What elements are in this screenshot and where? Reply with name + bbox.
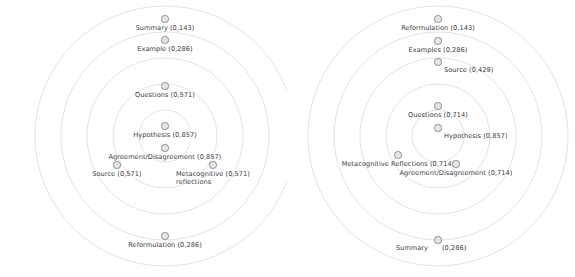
- node-label: Hypothesis (0,857): [444, 132, 508, 140]
- node-label-line2: reflections: [176, 178, 250, 186]
- node-label: Questions (0,714): [408, 111, 468, 119]
- node-label: Hypothesis (0,857): [133, 131, 197, 139]
- node-label: Summary (0,143): [136, 24, 195, 32]
- node-label: Agreement/Disagreement (0,714): [400, 169, 513, 177]
- node-label: Source (0,571): [92, 170, 141, 178]
- node-label: Questions (0,571): [135, 91, 195, 99]
- node-label: Metacognitive (0,571) reflections: [176, 170, 250, 186]
- node-marker-icon: [161, 144, 168, 151]
- node-marker-icon: [394, 151, 401, 158]
- right-ring-grid: [288, 0, 575, 277]
- figure-canvas: Summary (0,143) Example (0,286) Question…: [0, 0, 575, 277]
- node-marker-icon: [209, 161, 216, 168]
- node-marker-icon: [434, 58, 441, 65]
- node-label: Summary: [396, 244, 428, 252]
- node-label: Agreement/Disagreement (0,857): [109, 153, 222, 161]
- node-marker-icon: [113, 161, 120, 168]
- node-marker-icon: [161, 232, 168, 239]
- node-marker-icon: [161, 82, 168, 89]
- node-marker-icon: [434, 37, 441, 44]
- node-marker-icon: [434, 124, 441, 131]
- node-label: Reformulation (0,286): [128, 241, 202, 249]
- node-label: Source (0,429): [444, 66, 493, 74]
- node-marker-icon: [161, 36, 168, 43]
- node-label: Metacognitive Reflections (0,714): [342, 160, 455, 168]
- node-marker-icon: [434, 15, 441, 22]
- node-label: Examples (0,286): [409, 46, 468, 54]
- node-label: Example (0,286): [137, 45, 192, 53]
- node-marker-icon: [161, 15, 168, 22]
- node-marker-icon: [434, 236, 441, 243]
- node-label-line1: Metacognitive (0,571): [176, 170, 250, 178]
- node-marker-icon: [434, 102, 441, 109]
- left-concentric-diagram: Summary (0,143) Example (0,286) Question…: [0, 0, 287, 277]
- node-value: (0,286): [442, 244, 466, 252]
- right-concentric-diagram: Reformulation (0,143) Examples (0,286) S…: [288, 0, 575, 277]
- node-label: Reformulation (0,143): [401, 24, 475, 32]
- node-marker-icon: [161, 122, 168, 129]
- node-marker-icon: [452, 160, 459, 167]
